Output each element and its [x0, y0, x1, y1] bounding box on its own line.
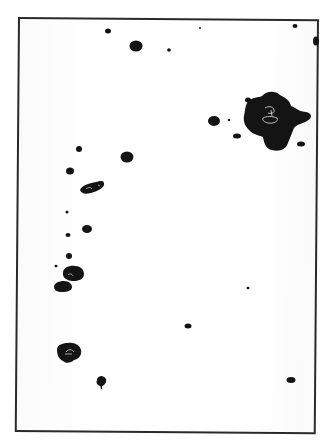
- spot: [185, 324, 192, 329]
- medium-spot: [57, 343, 81, 363]
- spot: [233, 134, 241, 139]
- spot: [167, 48, 171, 52]
- double-spot-upper: [63, 266, 84, 281]
- spot: [297, 142, 305, 147]
- spot: [313, 37, 319, 46]
- spot: [66, 253, 72, 259]
- spot: [293, 24, 298, 28]
- spot-list: [55, 24, 320, 386]
- spot: [287, 377, 296, 383]
- spot: [66, 211, 69, 214]
- spot: [105, 29, 111, 34]
- spot: [66, 233, 71, 237]
- double-spot-lower: [54, 281, 72, 292]
- spots-layer: [0, 0, 334, 448]
- spot-group: [54, 92, 311, 389]
- elongated-spot: [80, 181, 104, 194]
- spot: [208, 116, 220, 126]
- spot: [82, 225, 92, 233]
- spot: [228, 119, 230, 121]
- spot: [66, 168, 74, 175]
- spot: [247, 287, 250, 289]
- spot: [55, 265, 58, 267]
- spot: [121, 152, 134, 163]
- spot: [97, 378, 106, 386]
- spot: [199, 27, 201, 29]
- spot: [130, 41, 143, 52]
- spot: [76, 146, 82, 152]
- spot: [245, 98, 251, 103]
